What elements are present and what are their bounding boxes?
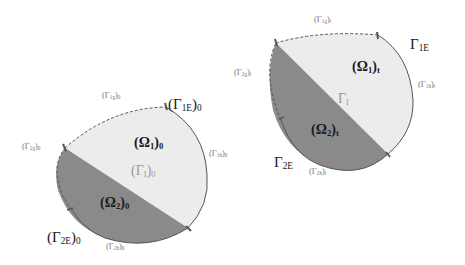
left-label-gamma-2E: (Γ2E)0 xyxy=(47,230,81,247)
left-label-gamma-1g: (Γ1g)0 xyxy=(102,91,121,101)
left-label-gamma-2h: (Γ2h)0 xyxy=(106,242,125,252)
right-label-omega2: (Ω2)t xyxy=(311,123,339,138)
left-label-gamma-2g: (Γ2g)0 xyxy=(22,142,41,152)
right-label-gamma-2g: (Γ2g)t xyxy=(234,68,251,78)
right-label-gamma-1g: (Γ1g)t xyxy=(314,15,331,25)
left-label-omega1: (Ω1)0 xyxy=(134,136,163,151)
left-label-gamma-1E: (Γ1E)0 xyxy=(168,97,202,114)
right-label-omega1: (Ω1)t xyxy=(352,60,380,75)
right-label-gamma-1E: Γ1E xyxy=(410,37,429,54)
left-label-omega2: (Ω2)0 xyxy=(100,196,129,211)
left-marker-top-left xyxy=(63,144,66,151)
right-marker-top-right xyxy=(377,32,378,39)
right-label-gamma-1h: (Γ1h)t xyxy=(418,80,435,90)
right-label-gamma-2E: Γ2E xyxy=(274,155,293,172)
right-label-gamma-2h: (Γ2h)t xyxy=(309,167,326,177)
diagram-canvas xyxy=(0,0,465,265)
left-label-gamma-1h: (Γ1h)0 xyxy=(209,149,228,159)
right-label-gamma-I: ΓI xyxy=(338,92,349,107)
left-label-gamma-I: (ΓI)0 xyxy=(131,164,156,179)
